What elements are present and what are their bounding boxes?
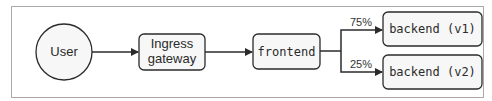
edge-label-25: 25% <box>350 58 372 70</box>
backend-v1-node-label: backend (v1) <box>383 12 482 46</box>
ingress-node-label-line1: Ingress <box>139 36 205 52</box>
frontend-node-label: frontend <box>253 34 320 69</box>
edge-label-75: 75% <box>350 16 372 28</box>
backend-v2-node-label: backend (v2) <box>383 55 482 89</box>
edge-frontend-backend-v1 <box>341 30 382 51</box>
ingress-node-label-line2: gateway <box>139 51 205 67</box>
user-node-label: User <box>36 42 92 62</box>
